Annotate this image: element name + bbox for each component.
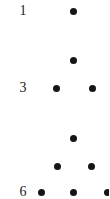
dot-r1-c1 <box>70 8 77 15</box>
dot-r5-c1 <box>54 163 61 170</box>
row-label-6: 6 <box>13 185 33 199</box>
dot-r6-c2 <box>70 189 77 196</box>
dot-diagram-figure: 136 <box>0 0 109 199</box>
dot-r6-c1 <box>38 189 45 196</box>
dot-r5-c2 <box>88 163 95 170</box>
dot-r3-c1 <box>53 85 60 92</box>
row-label-1: 1 <box>13 4 33 18</box>
dot-r3-c2 <box>89 85 96 92</box>
dot-r6-c3 <box>104 189 110 196</box>
row-label-3: 3 <box>13 81 33 95</box>
dot-r4-c1 <box>70 135 77 142</box>
dot-r2-c1 <box>70 57 77 64</box>
